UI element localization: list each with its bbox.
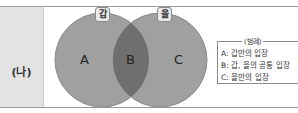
set-gap-badge: 갑	[95, 7, 110, 22]
bottom-divider	[0, 107, 298, 108]
region-b-label: B	[126, 52, 135, 67]
legend-item-b: B: 갑, 을의 공통 입장	[221, 59, 290, 70]
legend-item-a: A: 갑만의 입장	[221, 47, 268, 58]
legend-box: (범례) A: 갑만의 입장 B: 갑, 을의 공통 입장 C: 을만의 입장	[217, 41, 298, 84]
region-c-label: C	[174, 52, 183, 67]
legend-title: (범례)	[242, 36, 263, 46]
legend-item-c: C: 을만의 입장	[221, 71, 269, 82]
region-a-label: A	[80, 52, 89, 67]
set-eul-badge: 을	[157, 7, 172, 22]
